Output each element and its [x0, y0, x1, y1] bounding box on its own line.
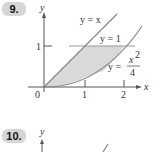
region-plot: y x 0 1 2 1 y = x y = 1 y = x 2 4 y	[0, 0, 156, 152]
label-y-equals-x: y = x	[80, 14, 101, 25]
y-tick-label-1: 1	[36, 41, 41, 52]
label-y-equals-1: y = 1	[100, 33, 121, 44]
x-tick-label-2: 2	[121, 89, 126, 100]
p10-curve-fragment	[103, 144, 108, 152]
p10-y-axis-label: y	[39, 126, 45, 137]
label-parabola-exponent: 2	[135, 49, 140, 60]
label-parabola-lhs: y =	[108, 61, 122, 72]
x-tick-label-1: 1	[82, 89, 87, 100]
x-axis-arrow-icon	[136, 85, 142, 89]
label-parabola-numerator: x	[128, 54, 134, 65]
label-parabola-denominator: 4	[130, 67, 135, 78]
origin-label: 0	[35, 89, 40, 100]
p10-y-axis-arrow-icon	[40, 139, 44, 144]
y-axis-label: y	[39, 2, 45, 13]
x-axis-label: x	[143, 81, 149, 92]
